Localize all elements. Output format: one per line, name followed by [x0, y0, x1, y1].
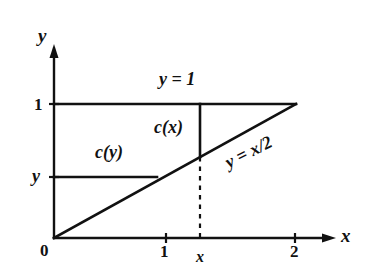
x-tick-label-2: 2 [290, 243, 299, 260]
y-tick-label-1: 1 [34, 96, 43, 113]
annotation-c-of-x: c(x) [154, 118, 183, 136]
y-axis-label: y [38, 26, 46, 45]
y-axis-arrowhead [50, 44, 59, 58]
origin-label: 0 [40, 242, 49, 259]
x-tick-label-1: 1 [160, 243, 169, 260]
x-point-label: x [196, 249, 204, 265]
figure-canvas [0, 0, 375, 276]
x-axis-label: x [341, 226, 351, 245]
x-axis-arrowhead [322, 234, 336, 243]
annotation-c-of-y: c(y) [95, 143, 123, 161]
y-tick-label-y: y [32, 167, 40, 185]
annotation-y-equals-1: y = 1 [159, 70, 195, 88]
